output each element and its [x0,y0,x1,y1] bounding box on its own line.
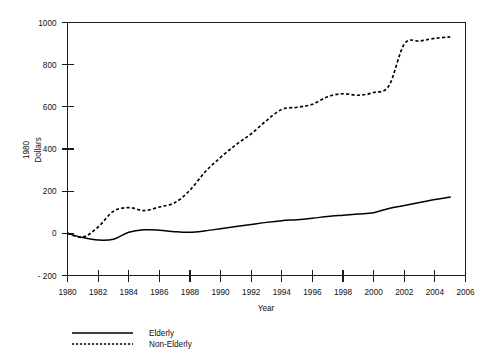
y-axis-title-line-2: Dollars [34,137,43,162]
y-axis-title: 1980 Dollars [22,137,43,162]
x-tick-label: 1984 [120,288,139,297]
x-tick-label: 1982 [89,288,108,297]
y-tick-label: 800 [43,61,57,70]
x-axis-title: Year [258,304,275,313]
x-tick-label: 2002 [395,288,414,297]
y-tick-label: 200 [43,187,57,196]
chart-svg: - 20002004006008001000 19801982198419861… [0,0,495,363]
series-line-elderly [68,197,451,240]
x-tick-label: 1992 [242,288,261,297]
y-tick-label: 600 [43,103,57,112]
x-tick-label: 1998 [334,288,353,297]
x-tick-label: 1996 [303,288,322,297]
plot-frame [68,23,466,276]
x-tick-label: 1980 [58,288,77,297]
y-tick-label: - 200 [38,272,57,281]
y-axis-ticks: - 20002004006008001000 [38,19,74,281]
x-tick-label: 1990 [211,288,230,297]
chart-figure: - 20002004006008001000 19801982198419861… [0,0,495,363]
x-tick-label: 1994 [273,288,292,297]
x-tick-label: 1986 [150,288,169,297]
x-tick-label: 2000 [365,288,384,297]
y-tick-label: 400 [43,145,57,154]
x-tick-label: 2006 [456,288,475,297]
x-axis-ticks: 1980198219841986198819901992199419961998… [58,270,475,297]
y-axis-title-line-1: 1980 [22,140,31,159]
legend-label-non-elderly: Non-Elderly [149,340,193,349]
y-tick-label: 0 [52,229,57,238]
x-tick-label: 1988 [181,288,200,297]
y-tick-label: 1000 [38,19,57,28]
x-tick-label: 2004 [426,288,445,297]
legend-label-elderly: Elderly [149,329,175,338]
series-group [68,37,451,240]
chart-legend: Elderly Non-Elderly [72,329,193,349]
